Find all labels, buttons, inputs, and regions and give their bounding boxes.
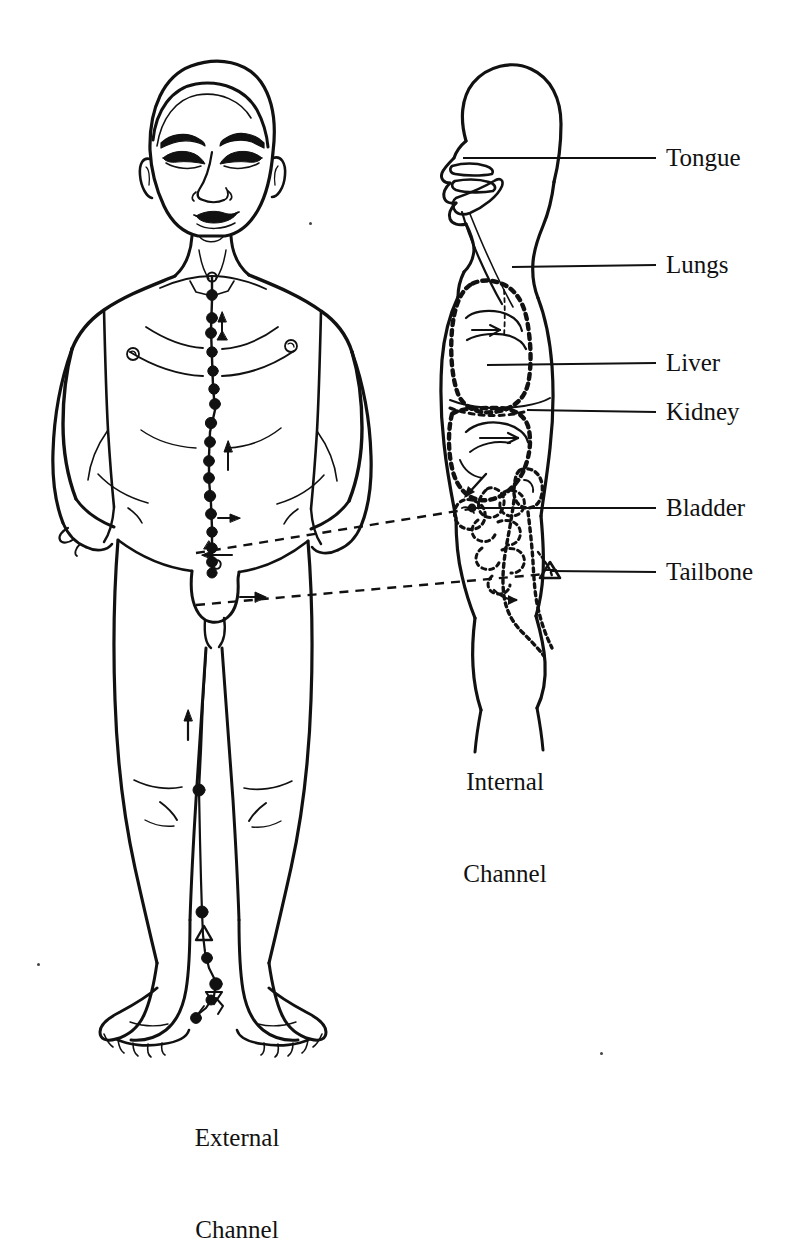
- tailbone-connector-line: [196, 574, 546, 605]
- caption-external-channel: External Channel: [137, 1062, 337, 1242]
- leader-line-liver: [487, 363, 656, 365]
- caption-internal-line2: Channel: [405, 859, 605, 890]
- caption-internal-channel: Internal Channel: [405, 706, 605, 950]
- bladder-connector-line: [196, 509, 470, 553]
- scan-speck-right: [600, 1052, 603, 1055]
- caption-internal-line1: Internal: [405, 767, 605, 798]
- label-liver: Liver: [666, 350, 720, 375]
- label-kidney: Kidney: [666, 399, 740, 424]
- scan-speck-upper: [309, 222, 312, 225]
- label-bladder: Bladder: [666, 495, 745, 520]
- scan-speck-lower: [37, 963, 40, 966]
- label-tailbone: Tailbone: [666, 559, 753, 584]
- leader-line-kidney: [527, 410, 656, 412]
- label-tongue: Tongue: [666, 145, 741, 170]
- leader-line-tailbone: [550, 571, 656, 572]
- caption-external-line1: External: [137, 1123, 337, 1154]
- leader-line-lungs: [512, 265, 656, 267]
- caption-external-line2: Channel: [137, 1215, 337, 1242]
- label-lungs: Lungs: [666, 252, 729, 277]
